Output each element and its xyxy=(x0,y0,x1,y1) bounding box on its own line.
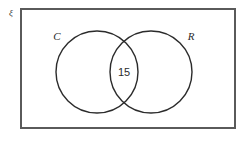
venn-diagram: ξ C R 15 xyxy=(0,0,248,141)
universal-set-label: ξ xyxy=(9,8,13,18)
set-label-r: R xyxy=(187,30,195,42)
venn-diagram-canvas: ξ C R 15 xyxy=(0,0,248,141)
region-count-intersection: 15 xyxy=(118,66,130,78)
set-label-c: C xyxy=(53,30,61,42)
